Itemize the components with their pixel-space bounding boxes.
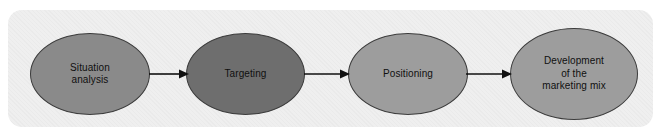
- process-node-situation-analysis[interactable]: Situation analysis: [30, 33, 150, 115]
- process-node-targeting[interactable]: Targeting: [186, 33, 305, 115]
- arrow-right-icon: [149, 68, 189, 80]
- process-flow-diagram: Situation analysis Targeting Positioning…: [0, 0, 661, 137]
- process-node-development-of-the-marketing-mix[interactable]: Development of the marketing mix: [510, 28, 638, 120]
- arrow-right-icon: [304, 68, 350, 80]
- arrow-right-icon: [466, 68, 512, 80]
- process-node-label: Positioning: [377, 68, 439, 81]
- stage-layer: Situation analysis Targeting Positioning…: [0, 0, 661, 137]
- process-node-positioning[interactable]: Positioning: [348, 33, 468, 115]
- process-node-label: Development of the marketing mix: [536, 55, 612, 93]
- process-node-label: Situation analysis: [64, 62, 116, 87]
- process-node-label: Targeting: [218, 68, 272, 81]
